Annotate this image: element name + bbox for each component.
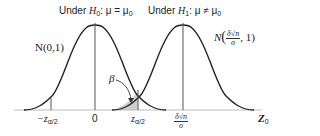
h0-title-prefix: Under (59, 5, 89, 16)
beta-arrow (116, 80, 131, 100)
h1-dist-label: N(δ√nσ, 1) (214, 30, 255, 48)
h1-relation: : μ ≠ μ (189, 5, 217, 16)
h1-dist-frac: δ√nσ (226, 30, 240, 48)
h1-rel-sub: 0 (217, 10, 221, 17)
h1-dist-den: σ (231, 39, 235, 47)
h0-dist-label: N(0,1) (35, 42, 64, 53)
tick-shift-den: σ (179, 122, 183, 130)
tick-shift: δ√nσ (174, 113, 188, 131)
tick-neg-z: −zα/2 (37, 114, 58, 125)
h1-title: Under H1: μ ≠ μ0 (148, 6, 221, 17)
tick-pos-z: zα/2 (131, 114, 145, 125)
h0-relation: : μ = μ (100, 5, 128, 16)
tick-neg-z-sub: α/2 (48, 118, 58, 125)
axis-label: Z0 (258, 113, 269, 125)
axis-label-sub: 0 (265, 118, 269, 125)
beta-label: β (109, 73, 114, 84)
tick-pos-z-sub: α/2 (135, 118, 145, 125)
h1-dist-suffix: , 1) (240, 31, 255, 43)
tick-zero: 0 (92, 114, 98, 124)
h0-rel-sub: 0 (129, 10, 133, 17)
h1-title-prefix: Under (148, 5, 178, 16)
axis-label-z: Z (258, 112, 265, 124)
tick-shift-frac: δ√nσ (174, 113, 188, 131)
tick-neg-z-text: −z (37, 113, 48, 124)
h0-title: Under H0: μ = μ0 (59, 6, 133, 17)
